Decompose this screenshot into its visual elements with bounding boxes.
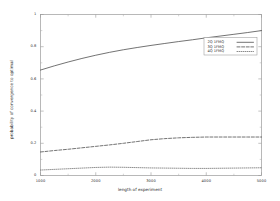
legend-label-1: 2Q 1FMQ: [208, 40, 225, 44]
x-tick-label: 4000: [195, 179, 217, 183]
y-tick-label: 0.6: [15, 77, 37, 81]
y-tick-label: 1: [15, 12, 37, 16]
chart-figure: probability of convergence to optimal le…: [0, 0, 280, 201]
y-tick-label: 0.8: [15, 44, 37, 48]
x-tick-label: 5000: [251, 179, 273, 183]
y-tick-label: 0.2: [15, 141, 37, 145]
x-tick-label: 1000: [30, 179, 52, 183]
legend-label-2: 3Q 1FMQ: [208, 45, 225, 49]
x-tick-label: 3000: [140, 179, 162, 183]
legend-label-3: 4Q 1FMQ: [208, 49, 225, 53]
y-tick-label: 0.4: [15, 109, 37, 113]
y-axis-label: probability of convergence to optimal: [9, 60, 14, 139]
series-line-3: [41, 167, 262, 170]
y-tick-label: 0: [15, 173, 37, 177]
x-axis-label: length of experiment: [0, 187, 280, 192]
x-tick-label: 2000: [85, 179, 107, 183]
series-line-2: [41, 137, 262, 152]
chart-canvas: [0, 0, 280, 201]
